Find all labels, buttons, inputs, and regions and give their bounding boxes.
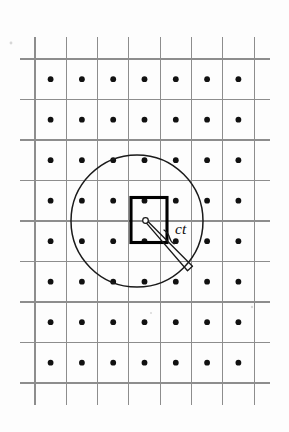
lattice-dot (236, 76, 242, 82)
lattice-dot (142, 279, 148, 285)
lattice-dot (110, 76, 116, 82)
lattice-dot (142, 76, 148, 82)
lattice-dot (79, 319, 85, 325)
lattice-dot (204, 238, 210, 244)
lattice-dot (79, 117, 85, 123)
lattice-dot (173, 157, 179, 163)
lattice-dot (204, 360, 210, 366)
lattice-wavefront-figure: ct (0, 0, 289, 432)
lattice-dot (110, 238, 116, 244)
lattice-dot (173, 319, 179, 325)
lattice-dot (204, 117, 210, 123)
lattice-dot (79, 238, 85, 244)
lattice-dot (48, 238, 54, 244)
lattice-dot (204, 319, 210, 325)
lattice-dot (236, 157, 242, 163)
lattice-dot (48, 360, 54, 366)
paper-speck-2 (150, 312, 152, 314)
lattice-dot (236, 198, 242, 204)
lattice-dot (110, 319, 116, 325)
lattice-dot (79, 198, 85, 204)
lattice-dot (204, 76, 210, 82)
lattice-dot (173, 76, 179, 82)
lattice-dot (48, 279, 54, 285)
lattice-dot (236, 238, 242, 244)
lattice-dot (173, 198, 179, 204)
figure-canvas: ct (0, 0, 289, 432)
lattice-dot (79, 279, 85, 285)
lattice-dot (48, 76, 54, 82)
lattice-dot (79, 76, 85, 82)
lattice-dot (236, 279, 242, 285)
lattice-dot (204, 198, 210, 204)
radius-label: ct (175, 220, 187, 237)
lattice-dot (48, 117, 54, 123)
lattice-dot (110, 360, 116, 366)
paper-speck-1 (251, 306, 253, 308)
lattice-dot (110, 198, 116, 204)
lattice-dot (173, 360, 179, 366)
lattice-dot (79, 157, 85, 163)
lattice-dot (79, 360, 85, 366)
origin-marker-icon (143, 218, 149, 224)
lattice-dot (173, 279, 179, 285)
lattice-dot (48, 319, 54, 325)
figure-background (0, 0, 289, 432)
lattice-dot (142, 117, 148, 123)
lattice-dot (110, 117, 116, 123)
lattice-dot (236, 360, 242, 366)
lattice-dot (173, 117, 179, 123)
lattice-dot (204, 157, 210, 163)
lattice-dot (142, 360, 148, 366)
lattice-dot (142, 319, 148, 325)
lattice-dot (204, 279, 210, 285)
paper-speck-0 (10, 42, 13, 45)
lattice-dot (142, 157, 148, 163)
lattice-dot (48, 198, 54, 204)
lattice-dot (236, 117, 242, 123)
lattice-dot (236, 319, 242, 325)
lattice-dot (48, 157, 54, 163)
